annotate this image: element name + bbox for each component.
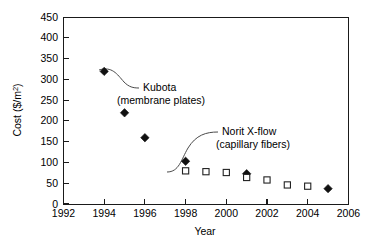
y-axis-ticks bbox=[64, 18, 69, 205]
x-tick-label: 2000 bbox=[215, 207, 239, 219]
y-tick-label: 450 bbox=[40, 11, 58, 23]
x-tick-label: 1994 bbox=[93, 207, 117, 219]
y-tick-label: 400 bbox=[40, 31, 58, 43]
x-axis-title: Year bbox=[194, 225, 216, 237]
data-point-diamond bbox=[324, 184, 332, 192]
y-axis-title-tail: ) bbox=[11, 83, 23, 87]
kubota-annotation: Kubota (membrane plates) bbox=[117, 81, 205, 106]
data-point-square bbox=[244, 174, 250, 180]
y-axis-tick-labels: 0 50 100 150 200 250 300 350 400 450 bbox=[40, 11, 58, 210]
data-point-square bbox=[305, 183, 311, 189]
kubota-annotation-line2: (membrane plates) bbox=[117, 94, 205, 106]
kubota-series-points bbox=[100, 67, 332, 193]
norit-leader-line bbox=[167, 132, 218, 172]
kubota-annotation-line1: Kubota bbox=[143, 81, 176, 93]
y-tick-label: 100 bbox=[40, 156, 58, 168]
x-tick-label: 2002 bbox=[255, 207, 279, 219]
y-axis-title: Cost ($/m2) bbox=[11, 83, 24, 136]
x-tick-label: 1998 bbox=[174, 207, 198, 219]
data-point-diamond bbox=[100, 67, 108, 75]
x-axis-tick-labels: 1992 1994 1996 1998 2000 2002 2004 2006 bbox=[52, 207, 360, 219]
norit-annotation-line2: (capillary fibers) bbox=[216, 138, 290, 150]
svg-text:Cost ($/m2): Cost ($/m2) bbox=[11, 83, 24, 136]
y-tick-label: 200 bbox=[40, 114, 58, 126]
y-tick-label: 250 bbox=[40, 94, 58, 106]
x-axis-ticks bbox=[64, 199, 349, 204]
norit-annotation: Norit X-flow (capillary fibers) bbox=[216, 125, 290, 150]
cost-vs-year-scatter-chart: 0 50 100 150 200 250 300 350 400 450 199… bbox=[0, 0, 371, 245]
plot-frame bbox=[64, 18, 349, 205]
x-tick-label: 1996 bbox=[133, 207, 157, 219]
data-point-square bbox=[183, 168, 189, 174]
y-tick-label: 150 bbox=[40, 135, 58, 147]
x-tick-label: 2006 bbox=[337, 207, 361, 219]
data-point-diamond bbox=[120, 109, 128, 117]
data-point-square bbox=[284, 182, 290, 188]
chart-figure: 0 50 100 150 200 250 300 350 400 450 199… bbox=[0, 0, 371, 245]
x-tick-label: 2004 bbox=[296, 207, 320, 219]
y-tick-label: 350 bbox=[40, 52, 58, 64]
y-tick-label: 300 bbox=[40, 73, 58, 85]
data-point-square bbox=[203, 169, 209, 175]
norit-annotation-line1: Norit X-flow bbox=[222, 125, 277, 137]
data-point-square bbox=[264, 177, 270, 183]
data-point-square bbox=[223, 169, 229, 175]
y-axis-title-main: Cost ($/m bbox=[11, 91, 23, 137]
data-point-diamond bbox=[141, 133, 149, 141]
x-tick-label: 1992 bbox=[52, 207, 76, 219]
y-tick-label: 50 bbox=[46, 177, 58, 189]
